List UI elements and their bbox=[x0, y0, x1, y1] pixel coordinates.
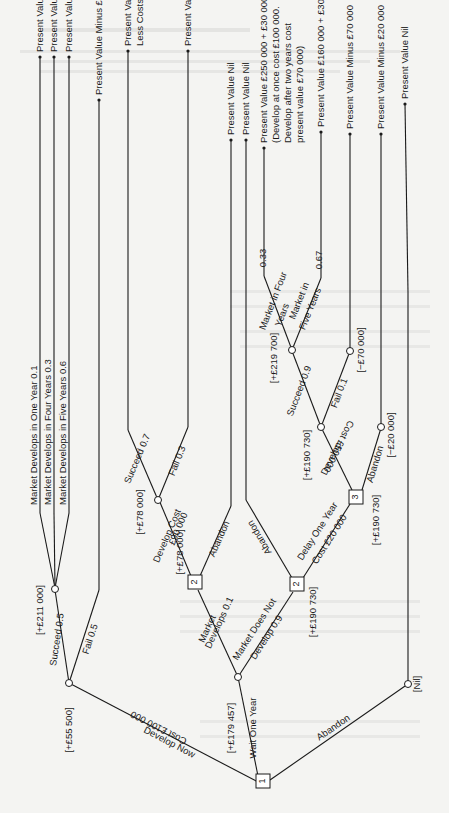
label-market-four-p: 0.33 bbox=[257, 249, 268, 268]
value-succeed-07: [+£78 000] bbox=[134, 489, 145, 534]
outcome-1: Present Value £400 000 bbox=[34, 0, 45, 52]
terminal-dot bbox=[38, 55, 41, 58]
outcome-9-line3: Develop after two years cost bbox=[282, 23, 293, 143]
label-abandon-2b: Abandon bbox=[244, 519, 273, 557]
terminal-dot bbox=[319, 130, 322, 133]
label-fail-05: Fail 0.5 bbox=[80, 622, 100, 655]
chance-node-succeed-05 bbox=[52, 586, 59, 593]
edge-market-4y bbox=[54, 513, 55, 588]
value-succeed-09: [+£219 700] bbox=[268, 333, 279, 383]
value-abandon-root: [Nil] bbox=[411, 676, 422, 692]
chance-node-develop-50 bbox=[318, 424, 325, 431]
label-succeed-05: Succeed 0.5 bbox=[47, 613, 66, 667]
book-page: 1 2 2 3 Develop Now Cost £100 000 Wait O… bbox=[0, 0, 449, 813]
terminal-dot bbox=[186, 49, 189, 52]
value-fail-01: [−£70 000] bbox=[355, 327, 366, 372]
terminal-dot bbox=[262, 146, 265, 149]
label-fail-01: Fail 0.1 bbox=[328, 376, 349, 409]
svg-text:3: 3 bbox=[350, 494, 360, 499]
label-abandon-3: Abandon bbox=[364, 444, 386, 484]
terminal-dot bbox=[52, 55, 55, 58]
outcome-3: Present Value £160 000 bbox=[63, 0, 74, 52]
terminal-dot bbox=[67, 55, 70, 58]
label-fail-03: Fail 0.3 bbox=[166, 444, 188, 477]
terminal-dot bbox=[126, 49, 129, 52]
label-market-1y: Market Develops in One Year 0.1 bbox=[28, 366, 39, 505]
edge-abandon-root bbox=[270, 684, 408, 780]
outcome-5-line1: Present Value of Receipts £240 000 bbox=[122, 0, 133, 46]
svg-text:2: 2 bbox=[189, 579, 199, 584]
terminal-dot bbox=[229, 138, 232, 141]
decision-node-2b: 2 bbox=[290, 577, 304, 591]
outcome-9-line4: present value £70 000) bbox=[294, 46, 305, 143]
label-market-five-p: 0.67 bbox=[313, 251, 324, 270]
label-succeed-09: Succeed 0.9 bbox=[284, 364, 313, 417]
outcome-13: Present Value Nil bbox=[399, 26, 410, 99]
outcome-5-line2: Less Costs £90 000 = £150 000 bbox=[134, 0, 145, 46]
decision-node-1: 1 bbox=[256, 774, 270, 788]
edge-market-1y bbox=[40, 513, 55, 588]
value-succeed-05: [+£211 000] bbox=[34, 585, 45, 635]
svg-text:1: 1 bbox=[257, 778, 267, 783]
outcome-6: Present Value Minus £90 000 bbox=[182, 0, 193, 46]
terminal-dot bbox=[348, 132, 351, 135]
terminal-dot bbox=[379, 132, 382, 135]
outcome-10: Present Value £160 000 + £30 000 bbox=[315, 0, 326, 127]
value-develop-now: [+£55 500] bbox=[63, 707, 74, 752]
value-develop-3: [+£190 730] bbox=[301, 430, 312, 480]
chance-node-develop-now bbox=[66, 680, 73, 687]
label-market-4y: Market Develops in Four Years 0.3 bbox=[42, 359, 53, 505]
svg-text:2: 2 bbox=[291, 581, 301, 586]
decision-node-2a: 2 bbox=[188, 575, 202, 589]
outcome-12: Present Value Minus £20 000 bbox=[375, 5, 386, 129]
label-develop-3-b: Cost £50 000 bbox=[322, 419, 357, 475]
value-abandon-3: [−£20 000] bbox=[385, 412, 396, 457]
chance-node-succeed-09 bbox=[289, 347, 296, 354]
chance-node-fail-01 bbox=[347, 348, 354, 355]
outcome-9-line2: (Develop at once cost £100 000. bbox=[270, 6, 281, 143]
outcome-2: Present Value £250 000 bbox=[48, 0, 59, 52]
outcome-8: Present Value Nil bbox=[240, 62, 251, 135]
outcome-11: Present Value Minus £70 000 bbox=[344, 5, 355, 129]
chance-node-develop-90 bbox=[155, 497, 162, 504]
label-market-5y: Market Develops in Five Years 0.6 bbox=[57, 361, 68, 505]
chance-node-wait bbox=[235, 674, 242, 681]
outcome-4: Present Value Minus £100 000 bbox=[93, 0, 104, 95]
label-abandon-2a: Abandon bbox=[206, 519, 232, 558]
outcome-7: Present Value Nil bbox=[225, 62, 236, 135]
terminal-dot bbox=[244, 138, 247, 141]
edge-nil-terminal bbox=[405, 104, 408, 292]
terminal-dot bbox=[97, 98, 100, 101]
decision-tree: 1 2 2 3 Develop Now Cost £100 000 Wait O… bbox=[0, 0, 449, 813]
label-succeed-07: Succeed 0.7 bbox=[121, 432, 152, 485]
label-wait-one-year: Wait One Year bbox=[247, 698, 258, 759]
outcome-9-line1: Present Value £250 000 + £30 000 bbox=[258, 0, 269, 143]
value-decision-3: [+£190 730] bbox=[370, 495, 381, 545]
value-wait-node: [+£179 457] bbox=[225, 703, 236, 753]
terminal-dot bbox=[403, 102, 406, 105]
chance-node-abandon-3 bbox=[378, 424, 385, 431]
decision-node-3: 3 bbox=[349, 490, 363, 504]
edge-market-5y bbox=[55, 513, 69, 588]
value-decision-2b: [+£190 730] bbox=[307, 587, 318, 637]
